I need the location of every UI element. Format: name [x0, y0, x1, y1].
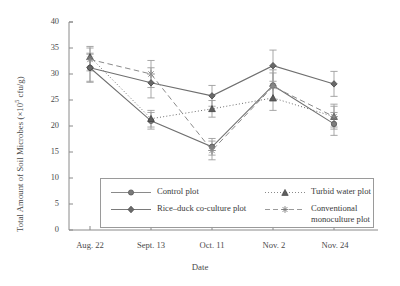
- legend-key-diamond-icon: [109, 204, 153, 215]
- legend-item-rice-duck: Rice–duck co-culture plot: [109, 203, 246, 214]
- legend-label-turbid-water: Turbid water plot: [311, 186, 371, 197]
- plot-area: [0, 0, 400, 286]
- chart-figure: Total Amount of Soil Microbes (×105 cfu/…: [0, 0, 400, 286]
- legend-key-circle-icon: [109, 187, 153, 198]
- series-rice-duck-co-culture-plot: [87, 62, 337, 99]
- legend-item-conventional: Conventionalmonoculture plot: [263, 203, 370, 224]
- legend-key-svg-riceduck: [109, 204, 153, 215]
- legend-key-svg-control: [109, 187, 153, 198]
- legend-label-conventional-line2: monoculture plot: [311, 214, 370, 224]
- legend-key-triangle-icon: [263, 187, 307, 198]
- legend-label-conventional: Conventionalmonoculture plot: [311, 203, 370, 224]
- chart-legend: Control plot Rice–duck co-culture plot T…: [100, 178, 374, 228]
- legend-item-control-plot: Control plot: [109, 186, 199, 197]
- legend-key-svg-conventional: [263, 204, 307, 215]
- legend-key-star-icon: [263, 204, 307, 215]
- legend-label-rice-duck: Rice–duck co-culture plot: [157, 203, 246, 214]
- legend-label-control-plot: Control plot: [157, 186, 199, 197]
- legend-key-svg-turbid: [263, 187, 307, 198]
- legend-label-conventional-line1: Conventional: [311, 203, 357, 213]
- legend-item-turbid-water: Turbid water plot: [263, 186, 371, 197]
